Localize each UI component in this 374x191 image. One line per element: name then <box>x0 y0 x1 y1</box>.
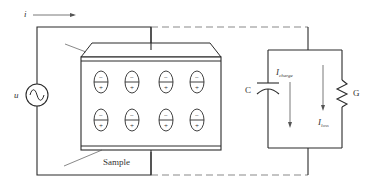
minus-sign: − <box>130 74 134 82</box>
plus-sign: + <box>195 122 199 130</box>
minus-sign: − <box>99 74 103 82</box>
plus-sign: + <box>164 84 168 92</box>
sample: Sample − + − + − + − + − + − + <box>64 27 221 175</box>
ac-source: u <box>14 84 48 106</box>
plus-sign: + <box>99 84 103 92</box>
current-arrow-head-icon <box>70 13 76 17</box>
resistor-zigzag-icon <box>337 80 347 107</box>
minus-sign: − <box>130 112 134 120</box>
minus-sign: − <box>195 74 199 82</box>
current-indicator: i <box>24 9 76 19</box>
electrode-pointer-line <box>65 44 86 52</box>
capacitor-label: C <box>245 85 251 95</box>
equivalent-circuit: C G Icharge Iloss <box>245 27 360 175</box>
plus-sign: + <box>130 84 134 92</box>
sample-pointer-line <box>64 150 102 166</box>
current-label: i <box>24 9 27 19</box>
resistor-label: G <box>353 88 360 98</box>
plus-sign: + <box>99 122 103 130</box>
charge-current-label: Icharge <box>275 67 293 78</box>
loss-arrow-head-icon <box>321 105 325 111</box>
minus-sign: − <box>99 112 103 120</box>
sample-label: Sample <box>103 157 130 167</box>
plus-sign: + <box>130 122 134 130</box>
circuit-diagram: i u Sample <box>0 0 374 191</box>
plus-sign: + <box>164 122 168 130</box>
minus-sign: − <box>164 74 168 82</box>
plus-sign: + <box>195 84 199 92</box>
charge-arrow-head-icon <box>288 122 292 128</box>
minus-sign: − <box>164 112 168 120</box>
source-label: u <box>14 90 19 100</box>
minus-sign: − <box>195 112 199 120</box>
loss-current-label: Iloss <box>317 117 329 128</box>
